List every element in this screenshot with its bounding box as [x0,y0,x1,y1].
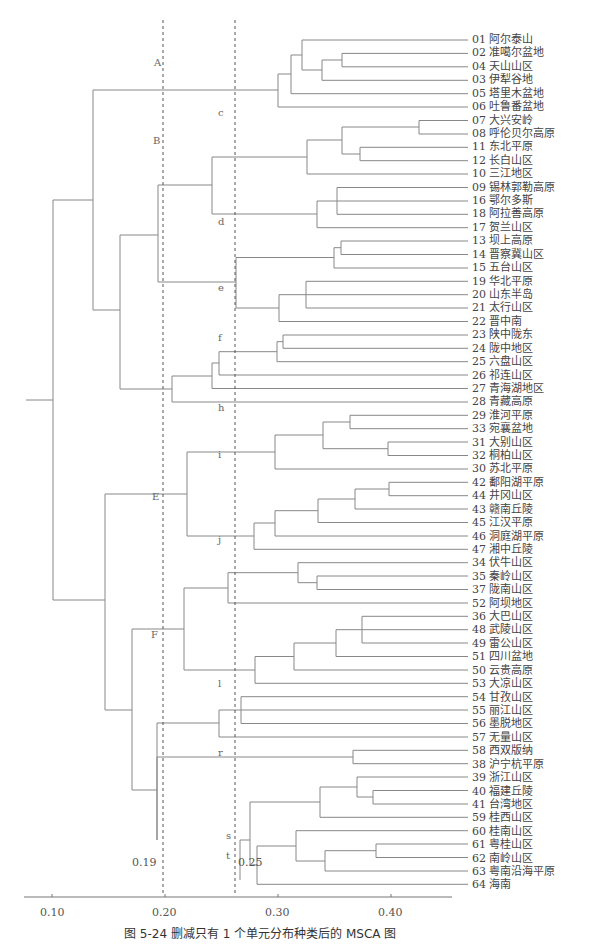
leaf-label: 39 浙江山区 [472,771,534,784]
threshold-label-0-19: 0.19 [132,856,157,869]
cluster-label: e [218,282,224,293]
cluster-label: f [218,332,222,343]
cluster-label: l [218,678,221,689]
leaf-label: 15 五台山区 [472,261,534,274]
cluster-label: s [226,830,231,841]
cluster-label: A [154,57,161,68]
leaf-label: 38 沪宁杭平原 [472,758,545,771]
leaf-label: 48 武陵山区 [472,623,534,636]
leaf-label: 22 晋中南 [472,315,523,328]
leaf-label: 50 云贵高原 [472,664,534,677]
leaf-label: 46 洞庭湖平原 [472,530,545,543]
leaf-label: 53 大凉山区 [472,677,534,690]
leaf-label: 45 江汉平原 [472,516,534,529]
leaf-label: 28 青藏高原 [472,395,534,408]
x-tick-label: 0.30 [265,906,290,919]
leaf-label: 11 东北平原 [472,140,534,153]
leaf-label: 06 吐鲁番盆地 [472,100,545,113]
leaf-label: 18 阿拉善高原 [472,207,545,220]
leaf-label: 61 粤桂山区 [472,838,534,851]
leaf-label: 42 鄱阳湖平原 [472,476,545,489]
threshold-label-0-25: 0.25 [238,856,263,869]
cluster-label: r [218,747,223,758]
leaf-label: 01 阿尔泰山 [472,33,534,46]
leaf-label: 24 陇中地区 [472,342,534,355]
leaf-label: 63 粤南沿海平原 [472,865,556,878]
leaf-label: 52 阿坝地区 [472,597,534,610]
leaf-label: 03 伊犁谷地 [472,73,534,86]
dendrogram-branches [26,40,468,884]
leaf-label: 07 大兴安岭 [472,114,534,127]
x-tick-label: 0.40 [378,906,403,919]
leaf-label: 35 秦岭山区 [472,570,534,583]
leaf-label: 62 南岭山区 [472,852,534,865]
leaf-label: 08 呼伦贝尔高原 [472,127,556,140]
leaf-label: 40 福建丘陵 [472,785,534,798]
leaf-label: 55 丽江山区 [472,704,534,717]
leaf-label: 33 宛襄盆地 [472,422,534,435]
leaf-label: 02 准噶尔盆地 [472,46,545,59]
cluster-label: B [153,135,160,146]
leaf-label: 64 海南 [472,878,512,891]
leaf-label: 13 坝上高原 [472,234,534,247]
cluster-label: F [151,629,158,640]
cluster-label: i [218,449,221,460]
leaf-label: 25 六盘山区 [472,355,534,368]
leaf-label: 05 塔里木盆地 [472,87,545,100]
leaf-label: 17 贺兰山区 [472,221,534,234]
leaf-label: 30 苏北平原 [472,462,534,475]
leaf-label: 21 太行山区 [472,301,534,314]
leaf-label: 10 三江地区 [472,167,534,180]
leaf-label: 34 伏牛山区 [472,556,534,569]
leaf-label: 31 大别山区 [472,436,534,449]
leaf-label: 47 湘中丘陵 [472,543,534,556]
leaf-label: 14 晋察冀山区 [472,248,545,261]
leaf-label: 44 井冈山区 [472,489,534,502]
leaf-label: 26 祁连山区 [472,369,534,382]
leaf-label: 20 山东半岛 [472,288,534,301]
leaf-label: 19 华北平原 [472,275,534,288]
cluster-label: d [218,216,224,227]
cluster-label: t [226,850,230,861]
leaf-label: 41 台湾地区 [472,798,534,811]
leaf-label: 37 陇南山区 [472,583,534,596]
leaf-label: 58 西双版纳 [472,744,534,757]
leaf-label: 23 陕中陇东 [472,328,534,341]
leaf-label: 32 桐柏山区 [472,449,534,462]
leaf-label: 56 墨脱地区 [472,717,534,730]
cluster-label: c [218,107,224,118]
leaf-label: 57 无量山区 [472,731,534,744]
leaf-label: 49 雷公山区 [472,637,534,650]
leaf-label: 29 淮河平原 [472,409,534,422]
leaf-label: 54 甘孜山区 [472,691,534,704]
leaf-label: 43 赣南丘陵 [472,503,534,516]
leaf-label: 51 四川盆地 [472,650,534,663]
cluster-label: j [218,534,221,545]
leaf-label: 27 青海湖地区 [472,382,545,395]
leaf-label: 60 桂南山区 [472,825,534,838]
leaf-label: 12 长白山区 [472,154,534,167]
cluster-label: E [152,491,159,502]
cluster-label: h [218,402,224,413]
figure-caption: 图 5-24 删减只有 1 个单元分布种类后的 MSCA 图 [124,924,396,941]
leaf-label: 04 天山山区 [472,60,534,73]
x-tick-label: 0.20 [152,906,177,919]
x-tick-label: 0.10 [40,906,65,919]
leaf-label: 59 桂西山区 [472,811,534,824]
leaf-label: 36 大巴山区 [472,610,534,623]
leaf-label: 16 鄂尔多斯 [472,194,534,207]
leaf-label: 09 锡林郭勒高原 [472,181,556,194]
